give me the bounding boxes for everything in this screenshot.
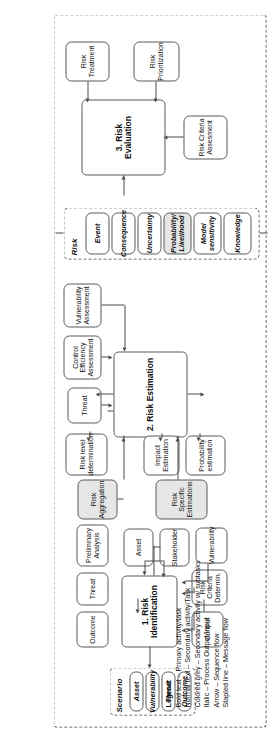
- connector: [56, 232, 64, 233]
- arrow-head: [121, 437, 125, 441]
- node-threat-identification[interactable]: Threat: [77, 572, 109, 605]
- connector: [200, 433, 201, 437]
- arrow-head: [164, 136, 168, 140]
- risk-item-knowledge[interactable]: Knowledge: [224, 212, 234, 254]
- arrow-head: [175, 437, 179, 441]
- connector: [90, 431, 91, 437]
- arrow-head: [109, 404, 113, 408]
- diagram-canvas: 1. Risk Identification Outcome Threat Pr…: [44, 0, 234, 741]
- pool-risk-title: Risk: [70, 238, 79, 255]
- legend-line-colored-grey: Colored grey – Secondary activity w/ sub…: [192, 457, 202, 707]
- arrow-head: [159, 437, 163, 441]
- arrow-head: [142, 571, 146, 575]
- arrow-head: [122, 347, 126, 351]
- node-vulnerability-assessment[interactable]: Vulnerability Assessment: [64, 283, 102, 327]
- node-risk-prioritization[interactable]: Risk Prioritization: [134, 41, 180, 81]
- node-control-efficiency-assessment[interactable]: Control Efficiency Assessment: [64, 335, 102, 379]
- connector: [124, 435, 125, 479]
- arrow-head: [153, 98, 157, 102]
- connector: [145, 560, 165, 561]
- connector: [118, 498, 124, 499]
- node-risk-aggregation[interactable]: Risk Aggregation: [78, 479, 118, 519]
- arrow-head: [121, 175, 125, 179]
- arrow-head: [109, 356, 113, 360]
- arrow-head: [197, 437, 201, 441]
- connector: [150, 646, 151, 665]
- connector: [125, 305, 126, 347]
- connector: [100, 393, 114, 394]
- arrow-head: [135, 609, 139, 613]
- connector: [154, 561, 155, 575]
- connector: [102, 304, 125, 305]
- risk-item-model-sensitivity[interactable]: Model sensitivity: [194, 212, 222, 254]
- connector: [188, 393, 202, 394]
- legend-title: Legend:: [164, 457, 174, 707]
- arrow-head: [96, 393, 100, 397]
- legend-line-bold-text: Bold text – Primary activity/task: [173, 457, 183, 707]
- scenario-item-asset[interactable]: Asset: [130, 671, 144, 711]
- risk-item-probability-likelihood[interactable]: Probability/ Likelihood: [164, 212, 192, 254]
- legend-line-arrow: Arrow – Sequence flow: [211, 457, 221, 707]
- legend-line-stapled: Stapled line – Message flow: [221, 457, 231, 707]
- arrow-head: [201, 393, 205, 397]
- arrow-head: [85, 98, 89, 102]
- scenario-item-vulnerability[interactable]: Vulnerability: [146, 671, 160, 711]
- risk-item-consequence[interactable]: Consequence: [112, 212, 136, 254]
- legend-line-italic: Italic – Process Output/Input: [202, 457, 212, 707]
- pool-scenario-title: Scenario: [115, 678, 124, 712]
- connector: [154, 546, 161, 547]
- risk-item-event[interactable]: Event: [86, 212, 110, 254]
- connector: [162, 433, 163, 437]
- risk-item-uncertainty[interactable]: Uncertainty: [138, 212, 162, 254]
- node-preliminary-analysis[interactable]: Preliminary Analysis: [77, 524, 109, 566]
- node-risk-treatment[interactable]: Risk Treatment: [66, 41, 110, 81]
- phase-risk-estimation[interactable]: 2. Risk Estimation: [114, 351, 188, 437]
- legend: Legend: Bold text – Primary activity/tas…: [164, 457, 231, 707]
- connector: [168, 136, 184, 137]
- connector: [108, 410, 114, 411]
- legend-line-normal-text: Normal text – Secondary activity/Task: [183, 457, 193, 707]
- connector: [156, 81, 157, 99]
- node-risk-criteria-assessment[interactable]: Risk Criteria Assesment: [184, 115, 228, 159]
- connector: [88, 81, 89, 99]
- connector: [154, 545, 155, 561]
- node-outcome-identification[interactable]: Outcome: [77, 611, 109, 647]
- phase-risk-evaluation[interactable]: 3. Risk Evaluation: [82, 99, 166, 175]
- arrow-head: [87, 437, 91, 441]
- connector: [145, 561, 146, 572]
